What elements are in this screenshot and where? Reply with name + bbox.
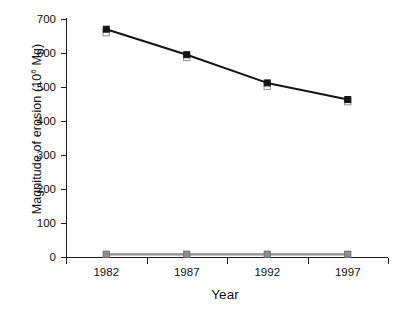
- series-line: [106, 29, 348, 99]
- series-marker: [184, 251, 190, 257]
- chart-data-layer: [0, 0, 400, 313]
- series-marker: [264, 251, 270, 257]
- chart-series: [103, 26, 351, 102]
- chart-figure: Magnitude of erosion (106 Mg) 0100200300…: [0, 0, 400, 313]
- series-marker: [103, 251, 109, 257]
- x-axis-title: Year: [60, 287, 390, 302]
- series-marker: [345, 251, 351, 257]
- series-marker: [264, 80, 270, 86]
- chart-series: [103, 251, 351, 257]
- series-marker: [345, 97, 351, 103]
- series-marker: [103, 26, 109, 32]
- series-marker: [184, 52, 190, 58]
